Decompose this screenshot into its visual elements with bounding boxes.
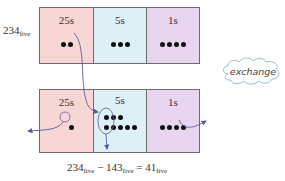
eq-b: 143 [106,161,123,173]
eq-result: 41 [145,161,156,173]
take-away-arrow-5s [106,134,107,149]
circle-25s [60,112,70,122]
eq-b-base: five [123,167,134,175]
exchange-arrow [74,33,98,112]
eq-op: − [97,161,103,173]
equation: 234five − 143five = 41five [67,161,167,175]
eq-a: 234 [67,161,84,173]
take-away-arrow-25s [28,122,63,131]
eq-result-base: five [156,167,167,175]
exchange-cloud: exchange [222,60,284,86]
cloud-text: exchange [222,66,284,77]
take-away-arrow-1s [179,120,206,127]
circle-5s [98,108,114,134]
arrows-overlay [0,0,285,181]
eq-equals: = [136,161,142,173]
eq-a-base: five [84,167,95,175]
